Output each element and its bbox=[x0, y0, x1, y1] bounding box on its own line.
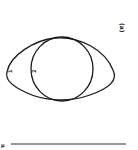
curve-1-label: 1 bbox=[7, 69, 13, 73]
diagram-figure: 1 2 (a) μ bbox=[0, 0, 138, 150]
scale-bar-label: μ bbox=[1, 142, 5, 149]
curve-1-outline bbox=[7, 38, 115, 100]
panel-label: (a) bbox=[119, 23, 126, 33]
curve-2-label: 2 bbox=[31, 69, 37, 73]
curve-2-circle bbox=[31, 37, 93, 101]
